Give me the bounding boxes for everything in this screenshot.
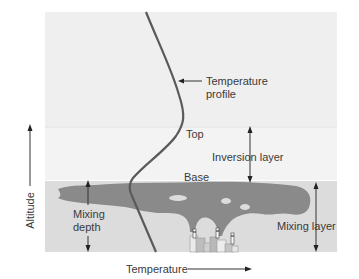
label-line: profile <box>206 88 268 101</box>
temperature-profile-label: Temperature profile <box>206 75 268 101</box>
label-line: Mixing <box>73 208 105 221</box>
mixing-depth-label: Mixing depth <box>73 208 105 234</box>
upper-air-region <box>45 12 337 127</box>
inversion-diagram <box>0 0 359 279</box>
base-label: Base <box>184 171 209 184</box>
top-label: Top <box>186 128 204 141</box>
mixing-layer-label: Mixing layer <box>277 220 336 233</box>
label-line: depth <box>73 221 105 234</box>
smoke-gap <box>221 198 231 204</box>
inversion-layer-label: Inversion layer <box>212 151 284 164</box>
x-axis-label: Temperature <box>126 263 188 276</box>
x-axis-arrow <box>188 267 252 272</box>
y-axis-arrow <box>28 124 33 186</box>
y-axis-label: Altitude <box>24 187 37 235</box>
label-line: Temperature <box>206 75 268 88</box>
smoke-gap <box>169 195 187 201</box>
smoke-gap <box>240 204 250 210</box>
